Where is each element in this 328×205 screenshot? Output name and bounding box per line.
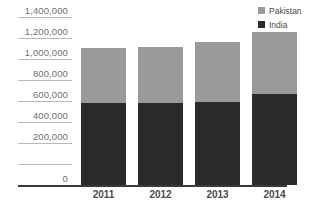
y-tick-label: 1,400,000 <box>0 6 68 16</box>
bar-segment-india[interactable] <box>138 103 183 185</box>
x-tick-label-2013: 2013 <box>195 189 240 201</box>
x-axis-line <box>72 185 287 187</box>
bar-2014-pakistan-wrap <box>252 32 297 94</box>
stacked-bar-chart: 1,400,000 1,200,000 1,000,000 800,000 60… <box>0 0 328 205</box>
y-tick-label: 400,000 <box>0 111 68 121</box>
y-tick-label: 600,000 <box>0 90 68 100</box>
y-tick-label: 1,200,000 <box>0 27 68 37</box>
bar-2014[interactable] <box>252 94 297 185</box>
bar-segment-pakistan[interactable] <box>138 47 183 103</box>
bar-2012[interactable] <box>138 103 183 185</box>
legend-item-pakistan[interactable]: Pakistan <box>258 5 328 16</box>
bar-2011[interactable] <box>81 103 126 185</box>
y-tick-label: 200,000 <box>0 132 68 142</box>
bar-segment-india[interactable] <box>195 102 240 185</box>
legend-label-pakistan: Pakistan <box>269 6 302 16</box>
gridline <box>18 38 72 39</box>
gridline <box>18 80 72 81</box>
bar-2012-pakistan-wrap <box>138 47 183 103</box>
bar-segment-pakistan[interactable] <box>252 32 297 94</box>
y-tick-label: 1,000,000 <box>0 48 68 58</box>
gridline <box>18 122 72 123</box>
x-tick-label-2011: 2011 <box>81 189 126 201</box>
gridline-baseline <box>18 185 72 187</box>
gridline <box>18 101 72 102</box>
bar-2013-pakistan-wrap <box>195 42 240 102</box>
legend-swatch-pakistan-icon <box>258 7 265 14</box>
chart-legend: Pakistan India <box>258 5 328 33</box>
gridline <box>18 17 72 18</box>
bar-segment-pakistan[interactable] <box>81 48 126 103</box>
bar-2013[interactable] <box>195 102 240 185</box>
legend-item-india[interactable]: India <box>258 19 328 30</box>
x-tick-label-2014: 2014 <box>252 189 297 201</box>
bar-2011-pakistan-wrap <box>81 48 126 103</box>
gridline <box>18 59 72 60</box>
legend-swatch-india-icon <box>258 21 265 28</box>
bar-segment-pakistan[interactable] <box>195 42 240 102</box>
gridline <box>18 143 72 144</box>
x-tick-label-2012: 2012 <box>138 189 183 201</box>
bar-segment-india[interactable] <box>81 103 126 185</box>
y-axis: 1,400,000 1,200,000 1,000,000 800,000 60… <box>0 0 72 205</box>
y-tick-label: 0 <box>0 174 68 184</box>
y-tick-label: 800,000 <box>0 69 68 79</box>
gridline <box>18 164 72 165</box>
legend-label-india: India <box>269 20 287 30</box>
bar-segment-india[interactable] <box>252 94 297 185</box>
